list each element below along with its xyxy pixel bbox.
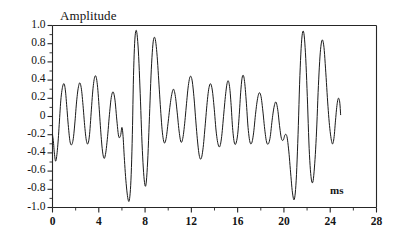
y-tick-label: 0 xyxy=(12,109,46,121)
y-tick-label: 0.4 xyxy=(12,72,46,84)
y-tick-label: 0.6 xyxy=(12,54,46,66)
y-tick-label: 0.8 xyxy=(12,36,46,48)
y-tick-label: -0.2 xyxy=(12,127,46,139)
plot-area xyxy=(0,0,406,234)
y-axis-ticks xyxy=(48,26,53,208)
x-tick-label: 0 xyxy=(38,215,68,227)
x-tick-label: 24 xyxy=(315,215,345,227)
y-tick-label: -0.8 xyxy=(12,181,46,193)
x-tick-label: 28 xyxy=(362,215,392,227)
y-tick-label: 1.0 xyxy=(12,18,46,30)
x-tick-label: 4 xyxy=(84,215,114,227)
x-tick-label: 16 xyxy=(223,215,253,227)
x-axis-ticks xyxy=(53,208,377,213)
waveform-chart-figure: Amplitude ms 1.00.80.60.40.20-0.2-0.4-0.… xyxy=(0,0,406,234)
y-tick-label: 0.2 xyxy=(12,90,46,102)
waveform-trace xyxy=(53,30,341,201)
y-tick-label: -0.4 xyxy=(12,145,46,157)
y-tick-label: -0.6 xyxy=(12,163,46,175)
x-tick-label: 20 xyxy=(269,215,299,227)
x-tick-label: 12 xyxy=(176,215,206,227)
y-tick-label: -1.0 xyxy=(12,200,46,212)
x-tick-label: 8 xyxy=(130,215,160,227)
